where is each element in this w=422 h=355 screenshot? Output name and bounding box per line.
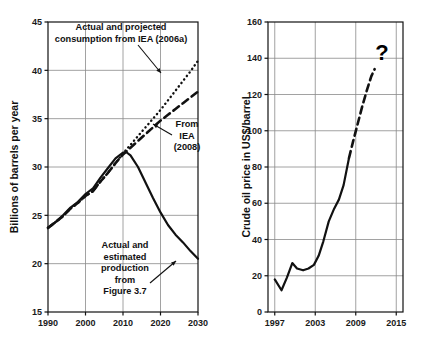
ytick-label: 60 xyxy=(252,198,262,208)
ytick-label: 30 xyxy=(32,162,42,172)
series-dashed xyxy=(349,69,375,158)
xtick-label: 2030 xyxy=(188,318,208,328)
annotation-iea-2006a-arrow xyxy=(138,45,161,73)
figure-container: 1520253035404519902000201020202030Billio… xyxy=(0,0,422,355)
series-solid xyxy=(275,158,349,290)
figure-svg: 1520253035404519902000201020202030Billio… xyxy=(0,0,422,355)
y-axis-title-left: Billions of barrels per year xyxy=(8,101,20,233)
y-axis-title-right: Crude oil price in US$/barrel xyxy=(240,96,252,237)
question-mark-annotation: ? xyxy=(375,40,388,65)
xtick-label: 1997 xyxy=(265,318,285,328)
ytick-label: 140 xyxy=(247,53,262,63)
xtick-label: 2010 xyxy=(113,318,133,328)
ytick-label: 40 xyxy=(252,235,262,245)
ytick-label: 40 xyxy=(32,66,42,76)
annotations: Actual and projectedconsumption from IEA… xyxy=(55,22,389,296)
chart-left: 1520253035404519902000201020202030Billio… xyxy=(8,17,208,328)
xtick-label: 2009 xyxy=(346,318,366,328)
annotation-production: Actual andestimatedproductionfromFigure … xyxy=(101,240,149,296)
ytick-label: 80 xyxy=(252,162,262,172)
ytick-label: 15 xyxy=(32,307,42,317)
ytick-label: 45 xyxy=(32,17,42,27)
ytick-label: 0 xyxy=(257,307,262,317)
gridlines-right xyxy=(268,22,403,312)
xtick-label: 2003 xyxy=(305,318,325,328)
xtick-label: 1990 xyxy=(38,318,58,328)
ytick-label: 25 xyxy=(32,211,42,221)
annotation-production-arrow xyxy=(150,261,176,283)
xtick-label: 2020 xyxy=(150,318,170,328)
ytick-label: 20 xyxy=(252,271,262,281)
annotation-iea-2006a: Actual and projectedconsumption from IEA… xyxy=(55,22,187,44)
ytick-label: 20 xyxy=(32,259,42,269)
xtick-label: 2000 xyxy=(75,318,95,328)
xtick-label: 2015 xyxy=(386,318,406,328)
annotation-iea-2008: FromIEA(2008) xyxy=(174,119,201,152)
ytick-label: 160 xyxy=(247,17,262,27)
ytick-label: 35 xyxy=(32,114,42,124)
